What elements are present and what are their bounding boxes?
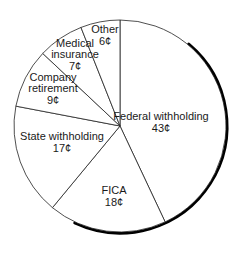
pie-chart: Federal withholding43¢FICA18¢State withh… xyxy=(0,0,239,253)
